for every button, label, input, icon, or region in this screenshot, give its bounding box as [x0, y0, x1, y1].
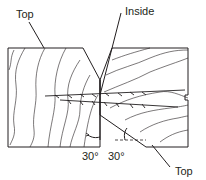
label-top-bottom: Top	[175, 165, 193, 177]
label-inside: Inside	[125, 5, 154, 17]
leader-top-bottom	[152, 145, 170, 167]
left-block	[8, 48, 100, 147]
nail-line-lower	[60, 100, 178, 108]
label-top-left: Top	[16, 8, 34, 20]
label-angle-left: 30°	[82, 150, 99, 162]
angle-marker-left	[86, 133, 100, 138]
label-angle-right: 30°	[108, 150, 125, 162]
leader-top-left	[29, 22, 44, 48]
nail-line-upper	[45, 90, 185, 98]
miter-joint-diagram: Top Inside 30° 30° Top	[0, 0, 206, 180]
leader-inside	[100, 13, 121, 95]
angle-marker-right	[115, 128, 146, 140]
right-block	[100, 48, 188, 147]
